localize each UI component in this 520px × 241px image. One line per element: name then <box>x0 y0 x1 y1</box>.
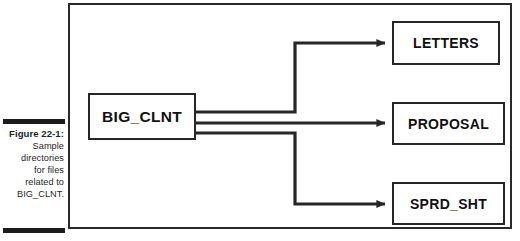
caption-figure-label: Figure 22-1: <box>0 128 64 140</box>
caption-rule-top <box>3 119 65 124</box>
figure-caption-text: Figure 22-1: Sample directories for file… <box>0 128 64 201</box>
caption-line-4: related to <box>0 176 64 188</box>
node-proposal[interactable]: PROPOSAL <box>392 102 505 145</box>
caption-line-3: for files <box>0 164 64 176</box>
caption-line-5: BIG_CLNT. <box>0 188 64 200</box>
caption-rule-bottom <box>3 228 65 233</box>
node-big-clnt-label: BIG_CLNT <box>102 108 182 126</box>
caption-line-2: directories <box>0 152 64 164</box>
node-proposal-label: PROPOSAL <box>408 116 489 132</box>
node-letters-label: LETTERS <box>413 35 479 51</box>
node-sprd-sht-label: SPRD_SHT <box>410 196 487 212</box>
figure-caption-column: Figure 22-1: Sample directories for file… <box>0 0 68 241</box>
node-letters[interactable]: LETTERS <box>392 21 500 65</box>
caption-line-1: Sample <box>0 140 64 152</box>
node-sprd-sht[interactable]: SPRD_SHT <box>392 182 505 225</box>
node-big-clnt[interactable]: BIG_CLNT <box>88 93 196 140</box>
